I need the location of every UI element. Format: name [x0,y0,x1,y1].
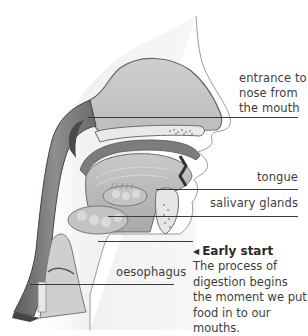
leader-line-salivary-glands [108,216,298,217]
leader-line-tongue [156,189,298,190]
caption-body: The process of digestion begins the mome… [193,259,308,336]
caption-title-text: Early start [202,244,273,258]
arrow-left-icon: ◀ [193,247,199,256]
label-salivary-glands: salivary glands [210,196,298,211]
label-nose-entrance: entrance to nose from the mouth [239,71,307,116]
leader-line-oesophagus [30,284,174,285]
label-line-2: nose from [239,86,307,101]
label-oesophagus: oesophagus [116,265,186,280]
caption-title: ◀Early start [193,244,308,259]
label-tongue: tongue [257,170,298,185]
label-line-3: the mouth [239,101,307,116]
caption-block: ◀Early start The process of digestion be… [193,244,308,336]
leader-line-nose-entrance [88,117,298,118]
leader-line-lower [98,241,193,242]
label-line-1: entrance to [239,71,307,86]
